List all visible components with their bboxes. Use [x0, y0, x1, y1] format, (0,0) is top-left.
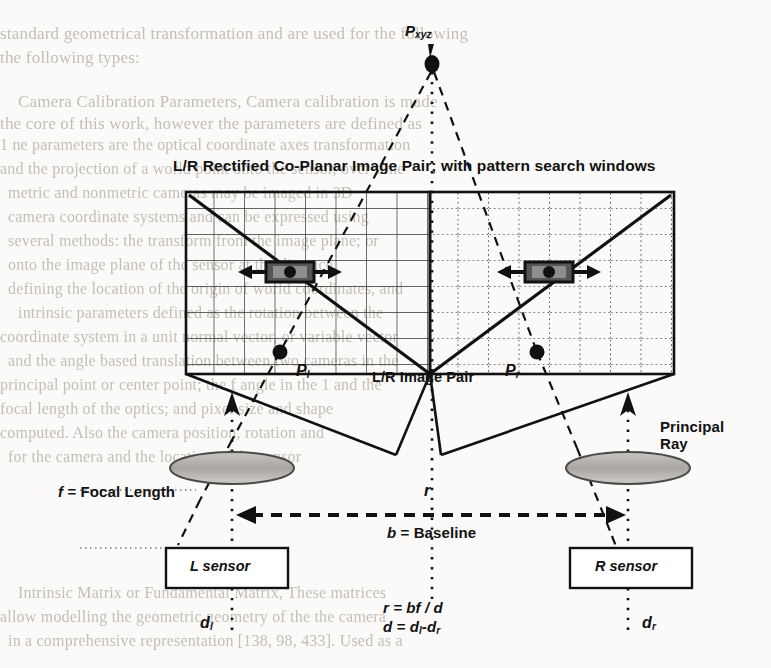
formula-range-lhs: r: [383, 599, 389, 616]
world-point-label: Pxyz: [405, 22, 432, 40]
right-disparity-label: dr: [642, 614, 656, 632]
formula-disparity: d = dl-dr: [383, 617, 443, 640]
left-lens: [170, 452, 294, 484]
baseline-symbol: b: [387, 524, 396, 541]
right-disparity-subscript: r: [652, 621, 656, 632]
principal-ray-label: Principal Ray: [660, 418, 738, 452]
right-point-subscript: r: [516, 369, 520, 380]
formula-disparity-lhs: d: [383, 618, 392, 635]
right-lens: [566, 452, 690, 484]
formula-disparity-sub2: r: [436, 625, 440, 636]
world-point-subscript: xyz: [415, 29, 431, 40]
right-sensor-label: R sensor: [595, 558, 657, 574]
formula-disparity-rhs: = d: [397, 618, 419, 635]
image-pair-label: L/R Image Pair: [372, 369, 474, 385]
focal-length-label: f = Focal Length: [58, 483, 175, 500]
diagram-title: L/R Rectified Co-Planar Image Pair; with…: [173, 157, 656, 175]
right-principal-ray: [620, 392, 636, 630]
formula-disparity-mid: -d: [422, 618, 436, 635]
baseline-text: = Baseline: [401, 524, 477, 541]
world-point-symbol: P: [405, 22, 415, 39]
world-point-marker: [425, 44, 440, 73]
right-disparity-symbol: d: [642, 614, 652, 631]
left-sensor-label: L sensor: [190, 558, 250, 574]
left-image-point-marker: [273, 345, 288, 360]
right-point-symbol: P: [505, 362, 516, 379]
formula-range: r = bf / d: [383, 598, 443, 617]
left-disparity-subscript: l: [210, 621, 213, 632]
focal-length-symbol: f: [58, 483, 63, 500]
range-formulas: r = bf / d d = dl-dr: [383, 598, 443, 640]
right-image-point-label: Pr: [505, 362, 520, 380]
range-label: r: [424, 482, 430, 500]
formula-range-rhs: = bf / d: [393, 599, 443, 616]
left-point-symbol: P: [296, 362, 307, 379]
left-disparity-symbol: d: [200, 614, 210, 631]
right-image-point-marker: [530, 345, 545, 360]
focal-length-text: = Focal Length: [67, 483, 175, 500]
perspective-frustum-edges: [186, 374, 674, 455]
left-point-subscript: l: [307, 369, 310, 380]
left-image-point-label: Pl: [296, 362, 310, 380]
baseline-label: b = Baseline: [387, 524, 476, 541]
left-disparity-label: dl: [200, 614, 213, 632]
scanned-page: standard geometrical transformation and …: [0, 0, 771, 668]
